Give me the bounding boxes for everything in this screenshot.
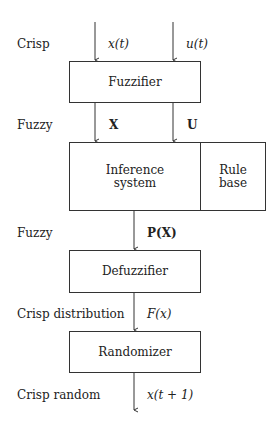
- inference-label-line2: system: [114, 177, 156, 190]
- level-label-crisp-distribution: Crisp distribution: [17, 307, 125, 321]
- inference-system-block: Inference system: [69, 142, 201, 211]
- level-label-fuzzy-2: Fuzzy: [17, 226, 52, 240]
- signal-u-t: u(t): [186, 37, 208, 51]
- signal-U: U: [187, 118, 197, 132]
- randomizer-block: Randomizer: [69, 331, 201, 373]
- randomizer-label: Randomizer: [98, 346, 171, 359]
- level-label-crisp: Crisp: [17, 37, 50, 51]
- rule-base-label-line1: Rule: [219, 164, 247, 177]
- rule-base-label-line2: base: [219, 177, 247, 190]
- signal-X: X: [109, 118, 118, 132]
- defuzzifier-label: Defuzzifier: [102, 265, 168, 278]
- defuzzifier-block: Defuzzifier: [69, 250, 201, 293]
- fuzzifier-label: Fuzzifier: [108, 76, 161, 89]
- signal-x-t: x(t): [108, 37, 129, 51]
- signal-P-X: P(X): [147, 226, 177, 240]
- fuzzifier-block: Fuzzifier: [69, 61, 201, 103]
- level-label-fuzzy: Fuzzy: [17, 118, 52, 132]
- signal-F-x: F(x): [147, 307, 171, 321]
- level-label-crisp-random: Crisp random: [17, 388, 100, 402]
- inference-label-line1: Inference: [106, 164, 164, 177]
- rule-base-block: Rule base: [200, 142, 266, 211]
- signal-x-t-plus-1: x(t + 1): [147, 388, 193, 402]
